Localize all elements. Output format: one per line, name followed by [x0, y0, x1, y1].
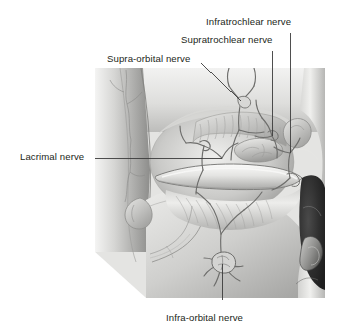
label-infraorbital-nerve: Infra-orbital nerve: [166, 313, 243, 323]
label-infratrochlear-nerve: Infratrochlear nerve: [206, 17, 291, 27]
label-supratrochlear-nerve: Supratrochlear nerve: [181, 35, 273, 45]
illustration-body: [95, 68, 325, 298]
label-lacrimal-nerve: Lacrimal nerve: [20, 152, 84, 162]
anatomical-figure: [0, 0, 337, 333]
infraorbital-foramen: [212, 252, 236, 273]
label-supraorbital-nerve: Supra-orbital nerve: [107, 54, 190, 64]
orbital-anatomy-illustration: [0, 0, 337, 333]
